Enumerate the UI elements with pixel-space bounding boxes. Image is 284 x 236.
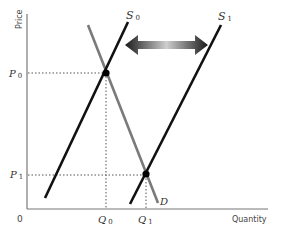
equilibrium-point-e1 bbox=[142, 170, 149, 177]
supply-demand-chart: S0 S1 D P0 P1 Q0 Q1 0 Quantity Price bbox=[0, 0, 284, 236]
equilibrium-point-e0 bbox=[102, 69, 109, 76]
supply-curve-s1 bbox=[130, 25, 221, 204]
s0-label: S0 bbox=[126, 9, 140, 22]
p0-label: P0 bbox=[8, 68, 22, 80]
y-axis-title: Price bbox=[15, 9, 24, 29]
q1-label: Q1 bbox=[138, 214, 153, 226]
guide-lines bbox=[28, 73, 146, 209]
d-label: D bbox=[159, 196, 168, 207]
x-axis-title: Quantity bbox=[232, 215, 267, 224]
supply-curve-s0 bbox=[45, 22, 128, 198]
p1-label: P1 bbox=[9, 169, 23, 181]
shift-double-arrow-icon bbox=[125, 35, 208, 55]
origin-label: 0 bbox=[17, 214, 23, 224]
s1-label: S1 bbox=[218, 10, 232, 23]
q0-label: Q0 bbox=[98, 214, 113, 226]
